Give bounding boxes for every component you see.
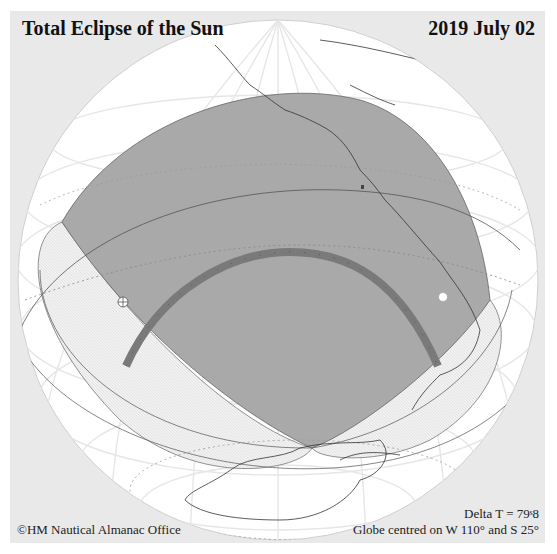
credit-text: ©HM Nautical Almanac Office: [17, 522, 181, 538]
delta-t-text: Delta T = 79ˢ8: [353, 506, 539, 522]
greatest-eclipse-marker-icon: [361, 185, 364, 189]
sunset-marker-icon: [439, 293, 448, 302]
globe-info: Delta T = 79ˢ8 Globe centred on W 110° a…: [353, 506, 539, 538]
chart-title: Total Eclipse of the Sun: [22, 17, 224, 40]
sunrise-marker-icon: [118, 297, 128, 307]
eclipse-date: 2019 July 02: [428, 17, 535, 40]
eclipse-globe-map: [0, 0, 557, 554]
globe-centre-text: Globe centred on W 110° and S 25°: [353, 522, 539, 538]
